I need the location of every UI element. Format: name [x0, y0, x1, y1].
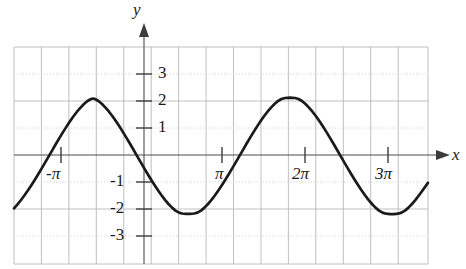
- y-tick-label-3: 3: [158, 63, 167, 83]
- y-tick-label-neg-2: -2: [110, 198, 124, 218]
- chart-figure: y x 3 2 1 -1 -2 -3 -π π 2π 3π: [0, 0, 466, 269]
- plot-canvas: [0, 0, 466, 269]
- y-axis-arrowhead: [139, 23, 149, 37]
- x-axis-label: x: [452, 145, 460, 165]
- x-tick-label-neg-pi: -π: [46, 164, 60, 184]
- x-axis-arrowhead: [436, 150, 450, 160]
- y-tick-label-1: 1: [158, 117, 167, 137]
- y-axis-label: y: [133, 0, 141, 20]
- cosine-curve: [14, 98, 428, 214]
- y-tick-label-neg-1: -1: [110, 171, 124, 191]
- x-tick-label-3pi: 3π: [375, 164, 392, 184]
- y-tick-label-neg-3: -3: [110, 225, 124, 245]
- x-tick-label-2pi: 2π: [292, 164, 309, 184]
- y-tick-label-2: 2: [158, 90, 167, 110]
- x-tick-label-pi: π: [215, 164, 224, 184]
